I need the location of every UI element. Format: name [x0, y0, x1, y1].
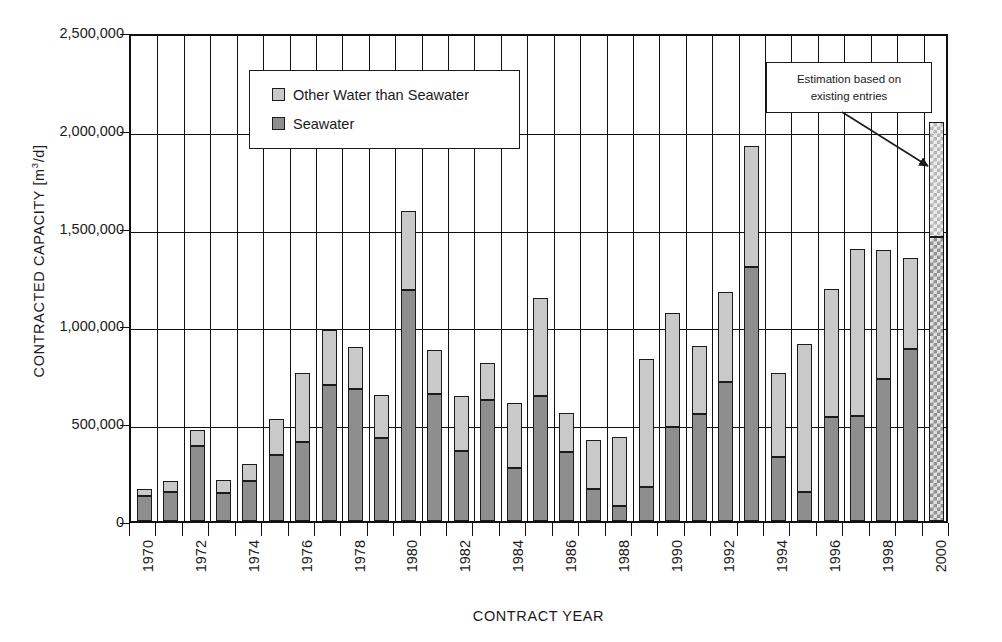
x-axis-tick-mark — [631, 523, 632, 536]
x-axis-tick-label: 1986 — [563, 540, 579, 572]
x-axis-tick-mark — [182, 523, 183, 536]
bar-segment-other-water — [533, 298, 548, 396]
bar-segment-other-water — [454, 396, 469, 451]
bar-segment-seawater — [586, 489, 601, 521]
x-axis-tick-mark — [895, 523, 896, 536]
legend-label-seawater: Seawater — [293, 116, 354, 132]
x-axis-tick-label: 1976 — [299, 540, 315, 572]
bar-segment-seawater — [718, 382, 733, 521]
bar-segment-other-water — [876, 250, 891, 379]
x-axis-ticks — [129, 523, 948, 537]
x-axis-tick-mark — [499, 523, 500, 536]
x-axis-tick-mark — [922, 523, 923, 536]
bar-1991 — [692, 346, 707, 521]
bar-segment-other-water — [507, 403, 522, 469]
bar-segment-seawater — [137, 496, 152, 521]
bar-segment-other-water — [216, 480, 231, 493]
x-axis-tick-mark — [393, 523, 394, 536]
bar-segment-seawater — [427, 394, 442, 521]
x-axis-tick-labels: 1970197219741976197819801982198419861988… — [129, 540, 948, 610]
x-axis-tick-mark — [235, 523, 236, 536]
x-axis-tick-mark — [657, 523, 658, 536]
x-axis-tick-mark — [314, 523, 315, 536]
bar-segment-seawater — [665, 427, 680, 521]
x-axis-tick-mark — [869, 523, 870, 536]
y-axis-tick-mark — [120, 425, 129, 426]
x-axis-tick-mark — [763, 523, 764, 536]
bar-segment-other-water — [348, 347, 363, 389]
bar-segment-seawater — [797, 492, 812, 521]
bar-segment-other-water — [322, 330, 337, 385]
legend-swatch-seawater — [272, 117, 285, 130]
bar-1987 — [586, 440, 601, 521]
bar-1982 — [454, 396, 469, 521]
x-axis-tick-mark — [129, 523, 130, 536]
bar-segment-seawater — [190, 446, 205, 521]
bar-segment-other-water — [559, 413, 574, 451]
bar-segment-seawater — [771, 457, 786, 521]
bar-1999 — [903, 258, 918, 521]
bar-segment-seawater — [612, 506, 627, 521]
y-axis-tick-label: 1,500,000 — [6, 221, 124, 237]
bar-segment-seawater — [507, 468, 522, 521]
x-axis-tick-label: 1972 — [193, 540, 209, 572]
bar-1970 — [137, 489, 152, 521]
chart-figure: CONTRACTED CAPACITY [m3/d] 2,500,0002,00… — [0, 0, 1002, 642]
bar-segment-seawater — [401, 290, 416, 521]
x-axis-tick-label: 1990 — [669, 540, 685, 572]
bar-1993 — [744, 146, 759, 521]
bar-segment-other-water — [929, 122, 944, 237]
bar-segment-seawater — [216, 493, 231, 521]
bar-1979 — [374, 395, 389, 521]
x-axis-tick-label: 1998 — [880, 540, 896, 572]
y-axis-tick-label: 1,000,000 — [6, 318, 124, 334]
x-axis-tick-mark — [208, 523, 209, 536]
bar-segment-other-water — [612, 437, 627, 506]
bar-segment-other-water — [401, 211, 416, 290]
x-axis-tick-label: 1996 — [827, 540, 843, 572]
bar-segment-seawater — [876, 379, 891, 521]
bar-segment-seawater — [454, 451, 469, 521]
y-axis-tick-mark — [120, 523, 129, 524]
bar-1971 — [163, 481, 178, 521]
x-axis-tick-label: 2000 — [933, 540, 949, 572]
annotation-line-2: existing entries — [811, 88, 888, 105]
bar-segment-other-water — [771, 373, 786, 457]
legend-swatch-other-water — [272, 88, 285, 101]
annotation-box: Estimation based on existing entries — [766, 62, 932, 113]
bar-segment-seawater — [744, 267, 759, 521]
bar-segment-seawater — [322, 385, 337, 521]
bar-segment-seawater — [533, 396, 548, 521]
bar-1984 — [507, 403, 522, 521]
bar-1986 — [559, 413, 574, 521]
bar-1998 — [876, 250, 891, 521]
bar-segment-other-water — [744, 146, 759, 266]
x-axis-tick-mark — [340, 523, 341, 536]
bar-1980 — [401, 211, 416, 521]
y-axis-tick-label: 2,500,000 — [6, 25, 124, 41]
x-axis-tick-mark — [155, 523, 156, 536]
x-axis-tick-label: 1984 — [510, 540, 526, 572]
bar-1977 — [322, 330, 337, 521]
x-axis-tick-label: 1982 — [457, 540, 473, 572]
bar-1981 — [427, 350, 442, 521]
bar-segment-other-water — [269, 419, 284, 454]
x-axis-tick-mark — [578, 523, 579, 536]
bar-segment-other-water — [480, 363, 495, 400]
legend: Other Water than Seawater Seawater — [249, 70, 520, 149]
legend-item-seawater: Seawater — [272, 109, 519, 138]
bar-1988 — [612, 437, 627, 521]
bar-segment-other-water — [295, 373, 310, 441]
bar-segment-seawater — [348, 389, 363, 521]
y-axis-tick-label: 2,000,000 — [6, 123, 124, 139]
bar-segment-seawater — [480, 400, 495, 521]
bar-1978 — [348, 347, 363, 521]
bar-segment-other-water — [824, 289, 839, 417]
bar-segment-seawater — [903, 349, 918, 521]
bar-segment-seawater — [929, 237, 944, 521]
y-axis-tick-mark — [120, 132, 129, 133]
bar-1973 — [216, 480, 231, 521]
x-axis-tick-mark — [288, 523, 289, 536]
bar-segment-seawater — [242, 481, 257, 521]
bar-segment-seawater — [824, 417, 839, 521]
